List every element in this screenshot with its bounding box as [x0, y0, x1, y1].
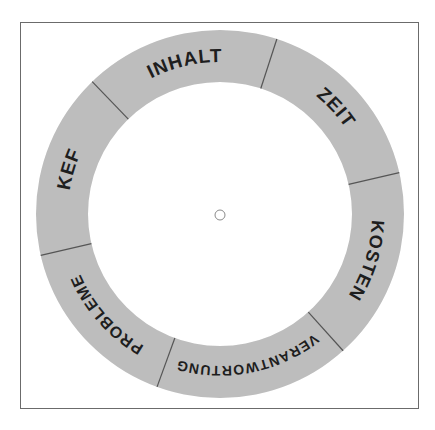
project-wheel-diagram: INHALTZEITKOSTENVERANTWORTUNGPROBLEMEKEF	[0, 0, 435, 430]
ring	[36, 30, 404, 398]
ring-band	[36, 30, 404, 398]
center-marker	[215, 210, 225, 220]
